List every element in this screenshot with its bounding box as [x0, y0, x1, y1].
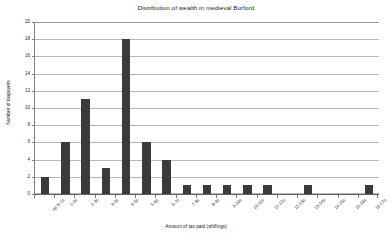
y-tick-label: 0: [27, 192, 30, 197]
bar: [81, 99, 89, 194]
y-axis-ticks: 02468101214161820: [0, 22, 34, 195]
y-tick-label: 14: [25, 72, 30, 77]
x-tick-label: 5-6s: [151, 198, 160, 207]
y-tick-label: 12: [25, 89, 30, 94]
bar: [162, 160, 170, 194]
y-tick-label: 16: [25, 54, 30, 59]
y-tick-label: 18: [25, 37, 30, 42]
x-axis-labels: up to 1s1-2s2-3s3-4s4-5s5-6s6-7s7-8s8-9s…: [34, 198, 379, 224]
x-tick-label: 4-5s: [131, 198, 140, 207]
x-tick-label: 3-4s: [110, 198, 119, 207]
chart-container: Distribution of wealth in medieval Burfo…: [0, 0, 392, 245]
bar: [102, 168, 110, 194]
x-tick-label: up to 1s: [52, 198, 66, 212]
x-tick-label: 11-12s: [274, 198, 286, 210]
bar: [304, 185, 312, 194]
bar: [263, 185, 271, 194]
plot-area: [34, 22, 379, 195]
x-tick-label: 7-8s: [191, 198, 200, 207]
x-tick-label: 12-13s: [294, 198, 307, 211]
y-tick-label: 6: [27, 140, 30, 145]
bar: [142, 142, 150, 194]
x-tick-label: 15-16s: [355, 198, 368, 211]
bar: [365, 185, 373, 194]
x-axis-title: Amount of tax paid (shillings): [0, 224, 392, 229]
x-tick-label: 2-3s: [90, 198, 99, 207]
x-tick-label: 1-2s: [70, 198, 79, 207]
y-tick-label: 10: [25, 106, 30, 111]
y-tick-label: 8: [27, 123, 30, 128]
bar: [122, 39, 130, 194]
bar: [61, 142, 69, 194]
bar: [203, 185, 211, 194]
chart-title: Distribution of wealth in medieval Burfo…: [0, 4, 392, 11]
x-tick-label: 6-7s: [171, 198, 180, 207]
y-tick-label: 20: [25, 20, 30, 25]
y-tick-label: 4: [27, 158, 30, 163]
x-tick-label: 9-10s: [232, 198, 243, 209]
x-tick-label: 8-9s: [212, 198, 221, 207]
bar: [223, 185, 231, 194]
x-tick-label: 10-11s: [253, 198, 265, 210]
bar: [243, 185, 251, 194]
x-tick-label: 13-14s: [314, 198, 327, 211]
x-tick-label: 14-15s: [334, 198, 347, 211]
bar: [41, 177, 49, 194]
x-tick-label: 16-17s: [375, 198, 388, 211]
bar: [183, 185, 191, 194]
bars-layer: [35, 22, 379, 194]
y-tick-label: 2: [27, 175, 30, 180]
